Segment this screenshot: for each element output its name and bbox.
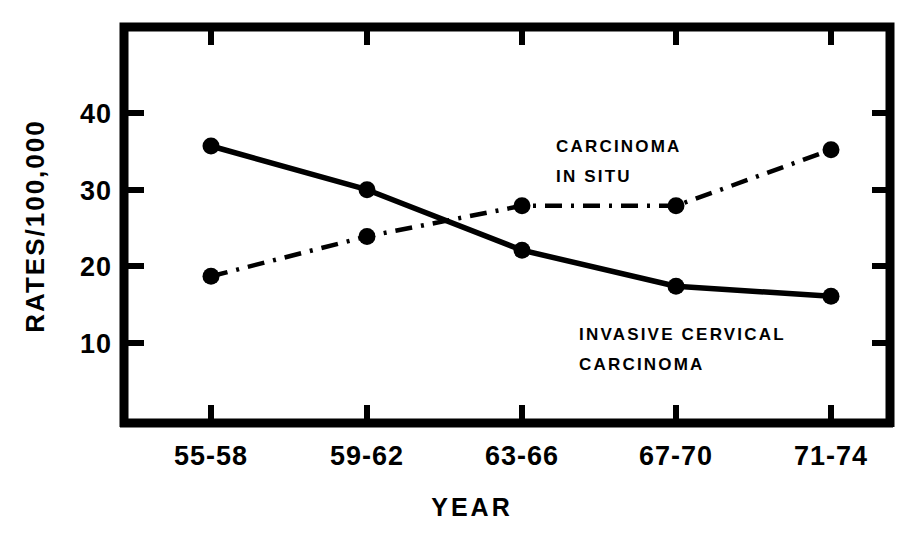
data-point-marker <box>823 141 840 158</box>
y-axis-title: RATES/100,000 <box>20 119 50 332</box>
y-axis-tick-labels: 40 30 20 10 <box>80 99 112 359</box>
x-tick-label-5: 71-74 <box>794 441 868 471</box>
annotation-in-situ-line1: CARCINOMA <box>556 137 682 156</box>
x-tick-label-4: 67-70 <box>639 441 713 471</box>
data-point-marker <box>668 278 685 295</box>
x-tick-label-1: 55-58 <box>174 441 248 471</box>
y-tick-label-10: 10 <box>80 329 112 359</box>
data-point-marker <box>514 197 531 214</box>
data-point-marker <box>668 197 685 214</box>
x-axis-title: YEAR <box>431 493 512 521</box>
data-point-marker <box>203 138 220 155</box>
annotation-invasive-cervical-carcinoma: INVASIVE CERVICAL CARCINOMA <box>579 325 786 374</box>
x-tick-label-2: 59-62 <box>330 441 404 471</box>
series-invasive-cervical-carcinoma <box>203 138 840 305</box>
annotation-carcinoma-in-situ: CARCINOMA IN SITU <box>556 137 682 186</box>
x-axis-tick-labels: 55-58 59-62 63-66 67-70 71-74 <box>174 441 868 471</box>
data-series-layer <box>203 138 840 305</box>
data-point-marker <box>823 288 840 305</box>
line-chart-canvas: 40 30 20 10 RATES/100,000 <box>0 0 921 533</box>
data-point-marker <box>514 242 531 259</box>
annotation-invasive-line1: INVASIVE CERVICAL <box>579 325 786 344</box>
data-point-marker <box>359 181 376 198</box>
data-point-marker <box>359 228 376 245</box>
y-tick-label-20: 20 <box>80 252 112 282</box>
y-tick-label-40: 40 <box>80 99 112 129</box>
x-tick-label-3: 63-66 <box>485 441 559 471</box>
annotation-in-situ-line2: IN SITU <box>556 167 632 186</box>
chart-figure: 40 30 20 10 RATES/100,000 <box>0 0 921 533</box>
y-tick-label-30: 30 <box>80 176 112 206</box>
series-carcinoma-in-situ <box>203 141 840 284</box>
plot-frame <box>120 27 893 427</box>
annotation-invasive-line2: CARCINOMA <box>579 355 705 374</box>
data-point-marker <box>203 268 220 285</box>
series-line-0 <box>211 146 831 296</box>
